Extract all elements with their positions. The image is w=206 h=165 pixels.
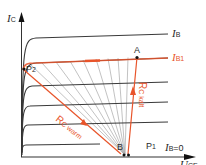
load-line-cold (128, 57, 137, 154)
point-B (123, 154, 126, 157)
ib-label: IB (172, 28, 180, 39)
point-B-label: B (117, 143, 123, 152)
x-axis-label: UCE (180, 159, 198, 165)
y-axis-arrow (19, 12, 25, 22)
ib1-label: IB1 (172, 52, 184, 63)
point-P1-label: P1 (146, 142, 156, 151)
arrow-cold (130, 86, 136, 95)
y-axis-label: IC (7, 13, 16, 24)
ib0-label: IB=0 (165, 142, 184, 153)
point-P1 (127, 154, 130, 157)
point-P2-label: P2 (26, 65, 36, 74)
point-A (135, 56, 138, 59)
characteristic-diagram (0, 0, 206, 165)
load-line-cold-label: RC kalt (137, 82, 147, 107)
point-A-label: A (134, 46, 140, 55)
load-line-warm (24, 70, 121, 154)
